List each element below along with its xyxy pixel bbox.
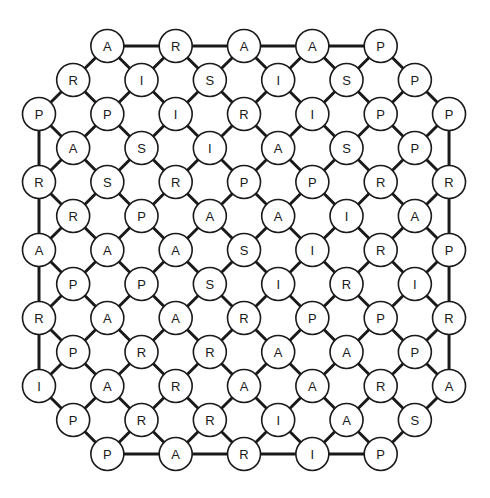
- letter-node[interactable]: I: [159, 98, 192, 131]
- letter-node[interactable]: S: [398, 404, 431, 437]
- letter-node[interactable]: A: [57, 132, 90, 165]
- letter-node[interactable]: P: [296, 302, 329, 335]
- node-letter: R: [171, 175, 180, 190]
- node-letter: A: [274, 345, 283, 360]
- letter-node[interactable]: P: [296, 166, 329, 199]
- letter-node[interactable]: S: [330, 132, 363, 165]
- letter-node[interactable]: I: [296, 98, 329, 131]
- node-letter: I: [37, 379, 41, 394]
- node-letter: A: [342, 413, 351, 428]
- letter-node[interactable]: R: [433, 166, 466, 199]
- letter-node[interactable]: I: [262, 64, 295, 97]
- node-letter: R: [376, 379, 385, 394]
- letter-node[interactable]: P: [125, 200, 158, 233]
- letter-node[interactable]: I: [193, 132, 226, 165]
- letter-node[interactable]: S: [125, 132, 158, 165]
- letter-node[interactable]: R: [125, 404, 158, 437]
- letter-node[interactable]: A: [91, 370, 124, 403]
- letter-node[interactable]: I: [296, 234, 329, 267]
- letter-node[interactable]: P: [364, 98, 397, 131]
- letter-node[interactable]: P: [228, 166, 261, 199]
- letter-node[interactable]: R: [330, 268, 363, 301]
- letter-node[interactable]: A: [262, 336, 295, 369]
- letter-node[interactable]: A: [193, 200, 226, 233]
- letter-node[interactable]: A: [228, 30, 261, 63]
- letter-node[interactable]: I: [23, 370, 56, 403]
- letter-node[interactable]: P: [57, 404, 90, 437]
- letter-node[interactable]: I: [262, 404, 295, 437]
- letter-node[interactable]: S: [193, 64, 226, 97]
- letter-node[interactable]: R: [159, 370, 192, 403]
- letter-node[interactable]: P: [364, 302, 397, 335]
- letter-node[interactable]: I: [398, 268, 431, 301]
- letter-node[interactable]: P: [398, 132, 431, 165]
- letter-node[interactable]: R: [57, 64, 90, 97]
- node-letter: I: [345, 209, 349, 224]
- letter-node[interactable]: P: [57, 336, 90, 369]
- letter-node[interactable]: P: [364, 438, 397, 471]
- letter-node[interactable]: P: [364, 30, 397, 63]
- node-letter: I: [311, 243, 315, 258]
- letter-node[interactable]: A: [330, 404, 363, 437]
- letter-node[interactable]: R: [228, 98, 261, 131]
- node-letter: R: [68, 209, 77, 224]
- letter-node[interactable]: A: [330, 336, 363, 369]
- letter-node[interactable]: A: [262, 200, 295, 233]
- letter-node[interactable]: P: [23, 98, 56, 131]
- letter-node[interactable]: R: [23, 302, 56, 335]
- letter-node[interactable]: P: [57, 268, 90, 301]
- letter-node[interactable]: R: [228, 302, 261, 335]
- letter-node[interactable]: R: [57, 200, 90, 233]
- letter-node[interactable]: A: [159, 234, 192, 267]
- node-letter: A: [103, 243, 112, 258]
- letter-node[interactable]: A: [91, 302, 124, 335]
- letter-node[interactable]: R: [125, 336, 158, 369]
- letter-node[interactable]: P: [398, 336, 431, 369]
- letter-node[interactable]: R: [364, 166, 397, 199]
- node-letter: A: [240, 39, 249, 54]
- letter-node[interactable]: R: [193, 404, 226, 437]
- letter-node[interactable]: I: [296, 438, 329, 471]
- letter-node[interactable]: A: [398, 200, 431, 233]
- letter-node[interactable]: A: [91, 30, 124, 63]
- letter-node[interactable]: P: [433, 234, 466, 267]
- letter-node[interactable]: I: [262, 268, 295, 301]
- letter-node[interactable]: R: [159, 30, 192, 63]
- node-letter: R: [376, 243, 385, 258]
- letter-node[interactable]: A: [433, 370, 466, 403]
- letter-node[interactable]: A: [159, 438, 192, 471]
- letter-node[interactable]: A: [296, 30, 329, 63]
- node-letter: P: [137, 277, 146, 292]
- letter-node[interactable]: S: [330, 64, 363, 97]
- letter-node[interactable]: P: [433, 98, 466, 131]
- letter-node[interactable]: P: [398, 64, 431, 97]
- letter-node[interactable]: R: [23, 166, 56, 199]
- letter-node[interactable]: P: [91, 98, 124, 131]
- letter-node[interactable]: I: [125, 64, 158, 97]
- letter-node[interactable]: P: [125, 268, 158, 301]
- letter-node[interactable]: S: [228, 234, 261, 267]
- node-letter: P: [445, 107, 454, 122]
- letter-node[interactable]: I: [330, 200, 363, 233]
- node-letter: P: [411, 73, 420, 88]
- letter-node[interactable]: R: [193, 336, 226, 369]
- letter-node[interactable]: A: [228, 370, 261, 403]
- letter-node[interactable]: S: [91, 166, 124, 199]
- letter-node[interactable]: A: [262, 132, 295, 165]
- letter-node[interactable]: A: [159, 302, 192, 335]
- letter-node[interactable]: A: [296, 370, 329, 403]
- letter-node[interactable]: R: [159, 166, 192, 199]
- letter-node[interactable]: R: [364, 370, 397, 403]
- node-letter: A: [411, 209, 420, 224]
- letter-node[interactable]: R: [433, 302, 466, 335]
- letter-node[interactable]: S: [193, 268, 226, 301]
- node-letter: A: [445, 379, 454, 394]
- letter-node[interactable]: R: [364, 234, 397, 267]
- letter-node[interactable]: P: [91, 438, 124, 471]
- node-letter: R: [171, 39, 180, 54]
- letter-node[interactable]: R: [228, 438, 261, 471]
- node-letter: P: [376, 447, 385, 462]
- letter-node[interactable]: A: [23, 234, 56, 267]
- node-letter: I: [276, 413, 280, 428]
- letter-node[interactable]: A: [91, 234, 124, 267]
